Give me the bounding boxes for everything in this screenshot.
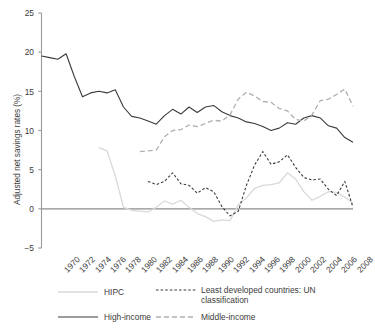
series-line-hipc [99, 148, 353, 222]
series-line-high-income [42, 54, 354, 143]
series-line-middle-income [140, 89, 353, 152]
legend-swatches [58, 290, 196, 317]
series-line-least-developed-countries-un-classification [148, 152, 353, 216]
data-series-layer [42, 54, 354, 222]
